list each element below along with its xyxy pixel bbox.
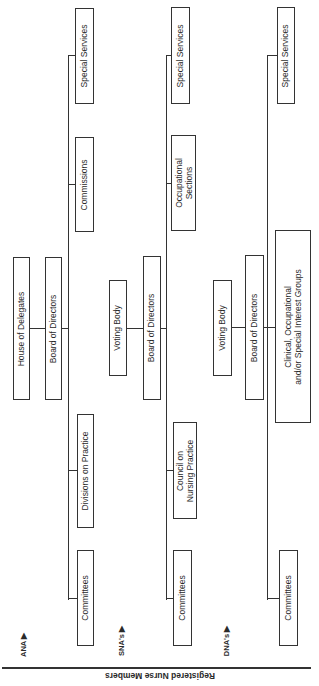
box-label: Special Services <box>281 24 291 87</box>
sna-level-tag: SNA's ▶ <box>117 626 126 656</box>
box-label: Board of Directors <box>49 294 59 363</box>
sna-special-services: Special Services <box>171 7 190 104</box>
box-label: Occupational Sections <box>174 158 193 208</box>
ana-commissions: Commissions <box>75 137 94 232</box>
sna-board-of-directors: Board of Directors <box>143 256 161 400</box>
dna-special-services: Special Services <box>277 7 295 104</box>
box-label: Commissions <box>80 159 90 210</box>
ana-special-services: Special Services <box>75 8 94 104</box>
ana-divisions-on-practice: Divisions on Practice <box>77 414 94 528</box>
ana-branch-divisions <box>68 470 77 471</box>
ana-committees: Committees <box>77 550 94 646</box>
box-label: Divisions on Practice <box>81 432 91 511</box>
box-label: Council on Nursing Practice <box>176 439 195 501</box>
org-chart: House of Delegates Board of Directors Sp… <box>0 0 319 686</box>
dna-branch-committees <box>267 598 279 599</box>
sna-committees: Committees <box>173 550 192 646</box>
sna-voting-body: Voting Body <box>109 280 127 376</box>
box-label: Special Services <box>80 25 90 88</box>
box-label: Clinical, Occupational and/or Special In… <box>284 269 303 384</box>
ana-board-of-directors: Board of Directors <box>45 257 62 400</box>
box-label: Committees <box>81 575 91 620</box>
dna-level-tag: DNA's ▶ <box>222 626 231 656</box>
ana-house-of-delegates: House of Delegates <box>13 257 30 400</box>
sna-occupational-sections: Occupational Sections <box>171 135 196 231</box>
dna-voting-body: Voting Body <box>213 280 232 376</box>
baseline-divider <box>2 667 311 669</box>
ana-branch-committees <box>68 598 77 599</box>
dna-clinical-occupational-special-interest-groups: Clinical, Occupational and/or Special In… <box>275 230 311 423</box>
registered-nurse-members-label: Registered Nurse Members <box>104 671 214 681</box>
dna-branch-special-services <box>267 55 277 56</box>
box-label: Board of Directors <box>147 294 157 363</box>
dna-committees: Committees <box>279 550 298 646</box>
box-label: House of Delegates <box>17 291 27 366</box>
box-label: Voting Body <box>113 305 123 350</box>
box-label: Voting Body <box>218 305 228 350</box>
box-label: Committees <box>284 575 294 620</box>
box-label: Special Services <box>176 24 186 87</box>
box-label: Board of Directors <box>250 293 260 362</box>
ana-level-tag: ANA ▶ <box>19 633 28 657</box>
box-label: Committees <box>178 575 188 620</box>
sna-council-on-nursing-practice: Council on Nursing Practice <box>173 422 197 519</box>
dna-board-of-directors: Board of Directors <box>245 255 264 400</box>
